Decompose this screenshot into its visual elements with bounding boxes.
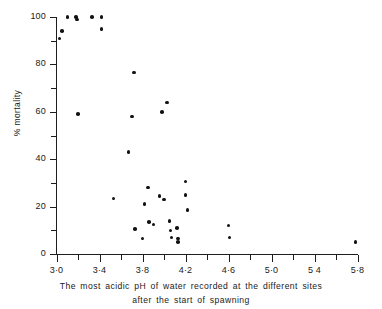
data-point bbox=[127, 150, 131, 154]
data-point bbox=[169, 229, 173, 233]
y-tick-label: 0 bbox=[6, 248, 46, 258]
data-point bbox=[228, 236, 232, 240]
y-tick-major bbox=[50, 64, 57, 65]
data-point bbox=[160, 110, 164, 114]
x-tick-major bbox=[358, 255, 359, 262]
data-point bbox=[112, 197, 116, 201]
y-tick-major bbox=[50, 207, 57, 208]
x-axis-title-line-2: after the start of spawning bbox=[0, 293, 382, 307]
data-point bbox=[58, 37, 62, 41]
data-point bbox=[60, 29, 64, 33]
y-tick-label: 100 bbox=[6, 11, 46, 21]
data-point bbox=[76, 112, 80, 116]
x-tick-label: 3·0 bbox=[37, 265, 77, 275]
y-tick-label: 20 bbox=[6, 201, 46, 211]
y-tick-major bbox=[50, 112, 57, 113]
y-tick-minor bbox=[51, 88, 57, 89]
y-tick-minor bbox=[51, 41, 57, 42]
data-point bbox=[175, 226, 179, 230]
x-tick-minor bbox=[207, 255, 208, 260]
x-axis-title-line-1: The most acidic pH of water recorded at … bbox=[0, 279, 382, 293]
data-point bbox=[184, 193, 188, 197]
x-tick-minor bbox=[293, 255, 294, 260]
x-tick-major bbox=[229, 255, 230, 262]
y-tick-minor bbox=[51, 136, 57, 137]
x-tick-major bbox=[272, 255, 273, 262]
data-point bbox=[162, 198, 166, 202]
data-point bbox=[227, 224, 231, 228]
data-point bbox=[165, 101, 169, 105]
y-tick-minor bbox=[51, 183, 57, 184]
data-point bbox=[100, 27, 104, 31]
x-tick-minor bbox=[250, 255, 251, 260]
x-tick-major bbox=[57, 255, 58, 262]
data-point bbox=[130, 115, 134, 119]
data-point bbox=[152, 223, 156, 227]
data-point bbox=[75, 18, 79, 22]
x-tick-label: 4·2 bbox=[166, 265, 206, 275]
x-tick-label: 5 4 bbox=[295, 265, 335, 275]
y-tick-label: 60 bbox=[6, 106, 46, 116]
x-tick-major bbox=[143, 255, 144, 262]
data-point bbox=[170, 236, 174, 240]
data-point bbox=[100, 15, 104, 19]
y-tick-label: 80 bbox=[6, 58, 46, 68]
data-point bbox=[184, 180, 188, 184]
data-point bbox=[146, 186, 150, 190]
y-tick-minor bbox=[51, 230, 57, 231]
x-tick-major bbox=[315, 255, 316, 262]
scatter-plot-figure: % mortality 020406080100 3·03·43·84·24·6… bbox=[0, 0, 382, 309]
x-tick-label: 3·4 bbox=[80, 265, 120, 275]
x-tick-minor bbox=[121, 255, 122, 260]
data-point bbox=[66, 15, 70, 19]
y-tick-major bbox=[50, 17, 57, 18]
data-point bbox=[354, 240, 358, 244]
y-tick-label: 40 bbox=[6, 153, 46, 163]
x-tick-major bbox=[186, 255, 187, 262]
y-tick-major bbox=[50, 159, 57, 160]
data-point bbox=[176, 240, 180, 244]
x-tick-label: 3·8 bbox=[123, 265, 163, 275]
x-tick-label: 5·0 bbox=[252, 265, 292, 275]
data-point bbox=[143, 202, 147, 206]
data-point bbox=[186, 208, 190, 212]
data-point bbox=[90, 15, 94, 19]
x-tick-minor bbox=[164, 255, 165, 260]
x-tick-label: 5·8 bbox=[338, 265, 378, 275]
data-point bbox=[132, 71, 136, 75]
x-tick-label: 4·6 bbox=[209, 265, 249, 275]
x-axis-title: The most acidic pH of water recorded at … bbox=[0, 279, 382, 307]
data-point bbox=[141, 237, 145, 241]
data-point bbox=[133, 227, 137, 231]
x-tick-major bbox=[100, 255, 101, 262]
data-point bbox=[147, 220, 151, 224]
data-point bbox=[158, 194, 162, 198]
x-tick-minor bbox=[336, 255, 337, 260]
x-tick-minor bbox=[78, 255, 79, 260]
data-point bbox=[168, 219, 172, 223]
